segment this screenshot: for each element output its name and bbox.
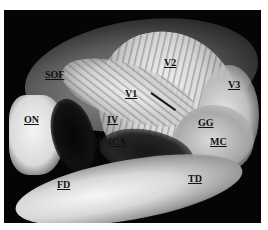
label-on: ON xyxy=(24,115,39,125)
label-v1: V1 xyxy=(125,89,137,99)
label-iii: III xyxy=(90,137,102,147)
label-mc: MC xyxy=(210,137,227,147)
label-fd: FD xyxy=(57,180,70,190)
dissection-photo xyxy=(4,10,261,223)
label-v2: V2 xyxy=(164,58,176,68)
label-iv: IV xyxy=(107,115,118,125)
label-td: TD xyxy=(188,174,202,184)
label-ica: ICA xyxy=(108,137,126,147)
label-gg: GG xyxy=(198,118,214,128)
label-sof: SOF xyxy=(45,70,64,80)
label-v3: V3 xyxy=(228,80,240,90)
